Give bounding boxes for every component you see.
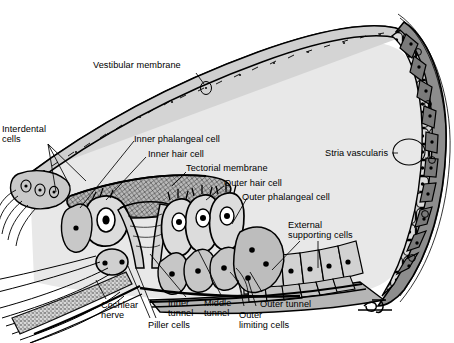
label-outer-limiting-cells: Outer limiting cells — [239, 310, 289, 331]
label-vestibular-membrane: Vestibular membrane — [93, 60, 181, 70]
inner-phalangeal-cell — [62, 204, 93, 252]
label-outer-hair-cell: Outer hair cell — [224, 178, 282, 188]
label-outer-phalangeal-cell: Outer phalangeal cell — [242, 192, 330, 202]
label-tectorial-membrane: Tectorial membrane — [186, 163, 268, 173]
label-cochlear-nerve: Cochlear nerve — [101, 300, 138, 321]
label-outer-tunnel: Outer tunnel — [260, 299, 311, 309]
label-inner-tunnel: Inner tunnel — [168, 298, 193, 319]
label-inner-phalangeal-cell: Inner phalangeal cell — [134, 134, 220, 144]
label-stria-vascularis: Stria vascularis — [325, 148, 388, 158]
label-piller-cells: Piller cells — [148, 320, 190, 330]
anatomical-figure: Vestibular membrane Interdental cells In… — [0, 0, 454, 343]
label-interdental-cells: Interdental cells — [2, 124, 46, 145]
label-external-supporting-cells: External supporting cells — [288, 220, 353, 241]
label-inner-hair-cell: Inner hair cell — [148, 149, 204, 159]
label-middle-tunnel: Middle tunnel — [204, 298, 231, 319]
